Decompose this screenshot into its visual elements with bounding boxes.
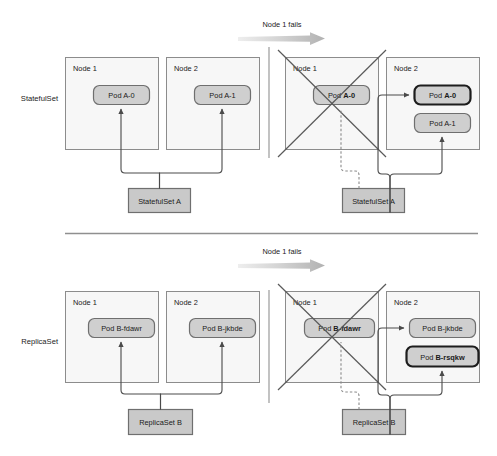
pod-label: Pod B-jkbde xyxy=(202,324,242,333)
transition-caption-statefulset: Node 1 fails xyxy=(262,20,301,29)
controller-label: ReplicaSet B xyxy=(139,418,182,427)
node-box-after-node2-statefulset: Node 2 Pod A-0 Pod A-1 xyxy=(387,58,480,150)
controller-label: StatefulSet A xyxy=(352,197,395,206)
row-side-label-statefulset: StatefulSet xyxy=(21,94,59,103)
pod-label: Pod A-1 xyxy=(209,91,235,100)
node-box-after-node1-statefulset: Node 1 Pod A-0 xyxy=(278,50,386,157)
pod-label: Pod B-jkbde xyxy=(422,324,462,333)
pod-label: Pod A-0 xyxy=(108,91,134,100)
node-box-before-node1-statefulset: Node 1 Pod A-0 xyxy=(66,58,159,150)
pod-label: Pod B-rsqkw xyxy=(420,353,465,362)
pod-label: Pod A-1 xyxy=(429,119,455,128)
controller-label: ReplicaSet B xyxy=(353,418,396,427)
node-title: Node 1 xyxy=(73,298,97,307)
pod-label: Pod B-fdawr xyxy=(318,324,361,333)
node-title: Node 1 xyxy=(73,64,97,73)
fail-arrow-replicaset xyxy=(238,259,325,272)
node-title: Node 2 xyxy=(174,298,198,307)
kubernetes-failover-diagram: StatefulSet Node 1 fails Node 1 Pod A-0 … xyxy=(0,0,497,456)
controller-box-after-replicaset: ReplicaSet B xyxy=(343,410,406,435)
transition-caption-replicaset: Node 1 fails xyxy=(262,247,301,256)
controller-box-after-statefulset: StatefulSet A xyxy=(343,189,405,213)
pod-label: Pod B-fdawr xyxy=(101,324,142,333)
fail-arrow-statefulset xyxy=(238,32,325,45)
node-title: Node 2 xyxy=(394,298,418,307)
controller-box-before-statefulset: StatefulSet A xyxy=(129,189,191,213)
pod-label: Pod A-0 xyxy=(328,91,355,100)
node-box-before-node2-replicaset: Node 2 Pod B-jkbde xyxy=(167,292,260,383)
node-box-after-node2-replicaset: Node 2 Pod B-jkbde Pod B-rsqkw xyxy=(387,292,480,383)
controller-box-before-replicaset: ReplicaSet B xyxy=(129,410,193,435)
node-box-before-node1-replicaset: Node 1 Pod B-fdawr xyxy=(66,292,159,383)
node-box-before-node2-statefulset: Node 2 Pod A-1 xyxy=(167,58,260,150)
row-side-label-replicaset: ReplicaSet xyxy=(21,337,59,346)
pod-label: Pod A-0 xyxy=(429,91,456,100)
controller-label: StatefulSet A xyxy=(138,197,181,206)
node-title: Node 2 xyxy=(394,64,418,73)
node-title: Node 2 xyxy=(174,64,198,73)
node-box-after-node1-replicaset: Node 1 Pod B-fdawr xyxy=(278,284,386,390)
